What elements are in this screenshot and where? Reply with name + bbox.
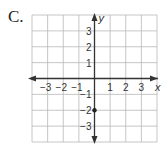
y-tick-label: 3	[86, 26, 92, 37]
x-tick-label: 3	[139, 82, 145, 93]
x-tick-label: 1	[107, 82, 113, 93]
y-tick-label: −3	[80, 121, 92, 132]
arrow-down-icon	[92, 136, 98, 144]
x-axis-label: x	[154, 81, 161, 93]
y-axis-label: y	[98, 12, 106, 24]
coordinate-grid: −3−2−1123321−1−2−3xy	[0, 0, 164, 151]
y-tick-label: −1	[80, 89, 92, 100]
y-tick-label: −2	[80, 105, 92, 116]
x-tick-label: −2	[56, 82, 68, 93]
y-tick-label: 1	[86, 58, 92, 69]
y-tick-label: 2	[86, 42, 92, 53]
x-tick-label: 2	[123, 82, 129, 93]
arrow-up-icon	[92, 13, 98, 21]
x-tick-label: −3	[40, 82, 52, 93]
data-point	[92, 108, 96, 112]
